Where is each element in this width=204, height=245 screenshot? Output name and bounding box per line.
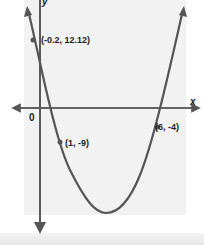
point-p2 (58, 140, 63, 145)
point-p1 (31, 38, 36, 43)
point-label-p1: (-0.2, 12.12) (41, 35, 90, 45)
y-axis-label: y (42, 0, 48, 7)
x-axis-label: x (190, 96, 196, 107)
curve-arrow-right (179, 6, 187, 17)
origin-label: 0 (29, 112, 35, 123)
curve-arrow-left (24, 6, 32, 17)
point-label-p2: (1, -9) (65, 138, 89, 148)
point-label-p3: (6, -4) (155, 122, 179, 132)
